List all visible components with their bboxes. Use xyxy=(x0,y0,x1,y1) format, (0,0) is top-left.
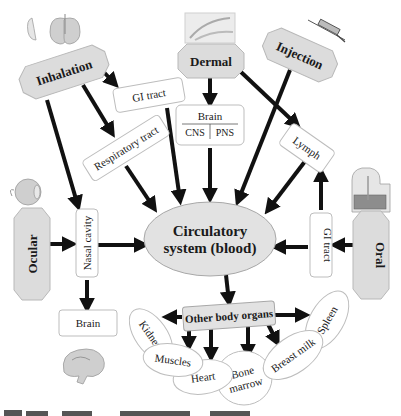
eye-icon xyxy=(10,179,41,205)
svg-text:CNS: CNS xyxy=(185,127,204,138)
brain-icon xyxy=(63,349,104,384)
svg-text:Brain: Brain xyxy=(76,317,101,329)
circulatory-system-hub: Circulatory system (blood) xyxy=(144,202,276,276)
cropped-caption xyxy=(4,410,250,416)
route-dermal: Dermal xyxy=(178,44,244,78)
box-respiratory-tract: Respiratory tract xyxy=(81,114,170,182)
route-label: Dermal xyxy=(190,54,232,69)
other-body-organs-box: Other body organs xyxy=(182,301,275,331)
lungs-icon xyxy=(28,14,81,44)
route-oral: Oral xyxy=(353,211,389,299)
route-ocular: Ocular xyxy=(14,208,50,300)
route-label: Oral xyxy=(373,242,388,268)
svg-text:Respiratory tract: Respiratory tract xyxy=(92,123,161,172)
box-lymph: Lymph xyxy=(278,122,336,173)
svg-text:Brain: Brain xyxy=(198,110,223,122)
svg-text:PNS: PNS xyxy=(216,127,234,138)
box-brain-bottom: Brain xyxy=(59,310,117,336)
box-nasal-cavity: Nasal cavity xyxy=(76,209,98,277)
box-gi-tract-right: GI tract xyxy=(310,213,334,277)
syringe-icon xyxy=(308,19,345,42)
box-brain-cns-pns: Brain CNS PNS xyxy=(176,105,244,145)
svg-text:GI tract: GI tract xyxy=(322,228,334,262)
exposure-routes-diagram: Inhalation Dermal Injection Ocular Oral … xyxy=(0,0,401,416)
svg-text:Circulatory: Circulatory xyxy=(173,223,248,239)
route-injection: Injection xyxy=(258,24,341,86)
digestive-system-icon xyxy=(352,168,390,212)
route-inhalation: Inhalation xyxy=(16,42,112,102)
svg-text:Nasal cavity: Nasal cavity xyxy=(81,215,93,270)
box-gi-tract-top: GI tract xyxy=(112,77,185,113)
hand-skin-icon xyxy=(185,13,235,43)
route-label: Ocular xyxy=(25,234,40,273)
svg-text:system (blood): system (blood) xyxy=(164,240,257,257)
